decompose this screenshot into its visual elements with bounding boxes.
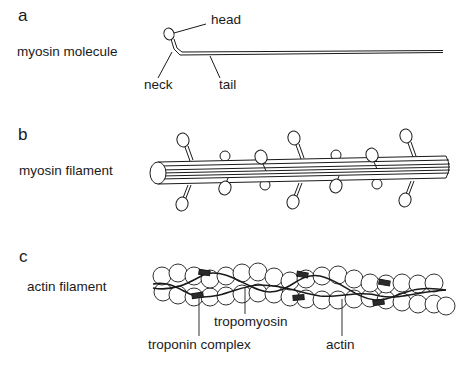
myosin-molecule-drawing — [158, 24, 443, 78]
muscle-filament-diagram — [0, 0, 466, 370]
actin-filament-drawing — [153, 263, 455, 315]
myosin-filament-drawing — [150, 128, 450, 213]
